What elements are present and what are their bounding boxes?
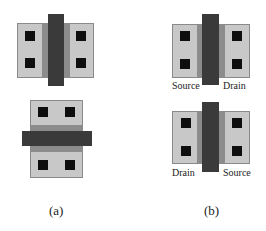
contact xyxy=(180,31,190,41)
panel-b-caption: (b) xyxy=(204,204,219,217)
source-label: Source xyxy=(223,168,251,178)
contact xyxy=(65,107,75,117)
contact xyxy=(232,146,242,156)
contact xyxy=(232,31,242,41)
contact xyxy=(181,146,191,156)
drain-label: Drain xyxy=(172,168,195,178)
contact xyxy=(38,160,48,170)
contact xyxy=(25,31,35,41)
contact xyxy=(181,118,191,128)
panel-a-caption: (a) xyxy=(49,204,63,217)
contact xyxy=(65,160,75,170)
contact xyxy=(232,59,242,69)
drain-label: Drain xyxy=(223,81,246,91)
contact xyxy=(76,58,86,68)
contact xyxy=(76,31,86,41)
poly-gate xyxy=(202,14,219,85)
contact xyxy=(232,118,242,128)
contact xyxy=(180,59,190,69)
contact xyxy=(38,107,48,117)
poly-gate xyxy=(202,102,219,172)
source-label: Source xyxy=(172,81,200,91)
poly-gate xyxy=(22,131,92,146)
poly-gate xyxy=(48,14,64,86)
contact xyxy=(25,58,35,68)
